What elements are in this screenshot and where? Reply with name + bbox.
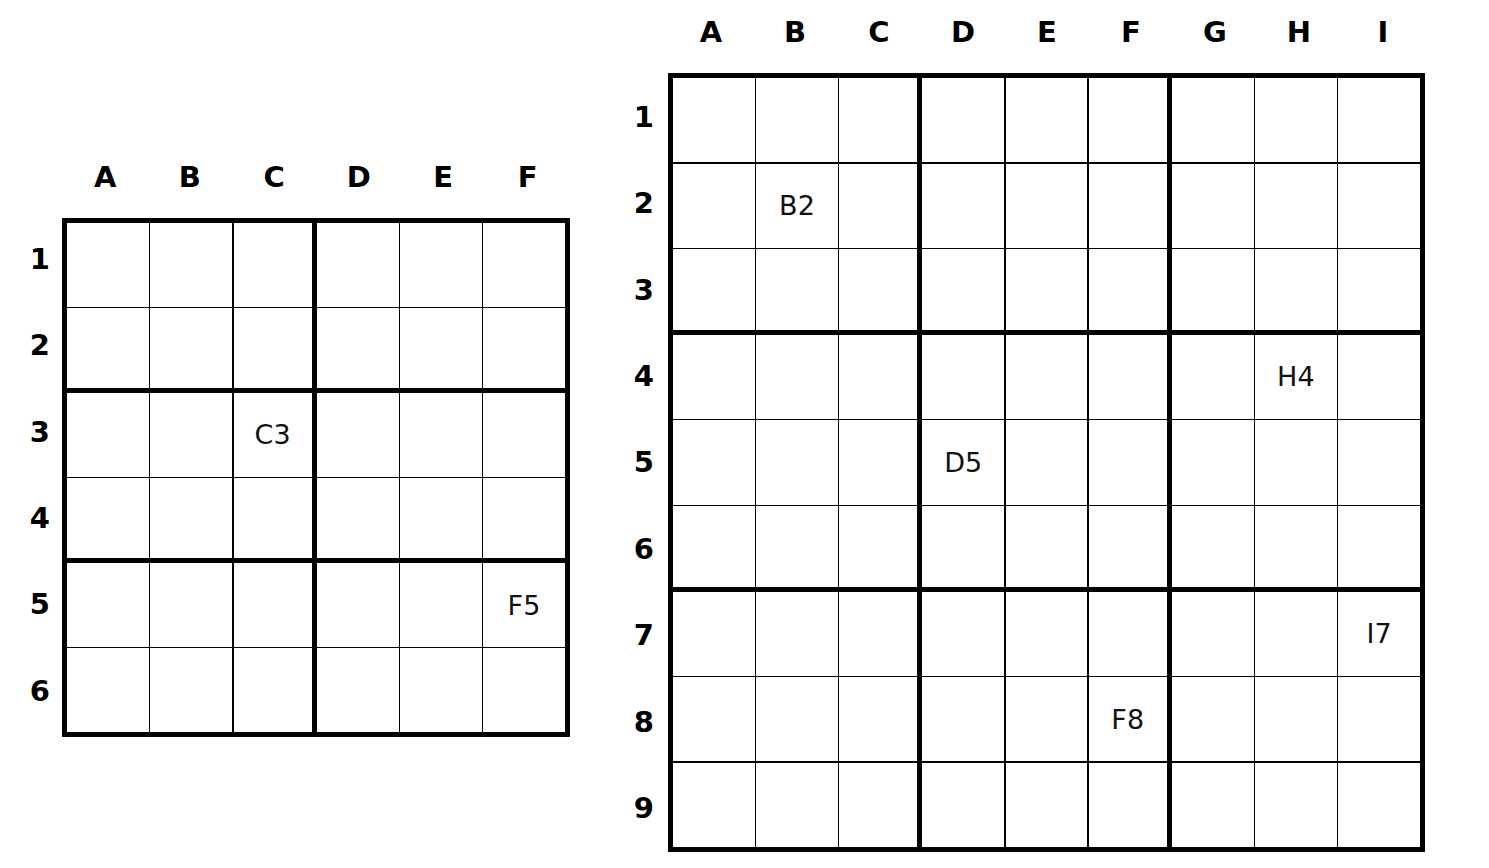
cell-b9[interactable] bbox=[756, 763, 838, 847]
cell-f1[interactable] bbox=[483, 223, 565, 307]
cell-g2[interactable] bbox=[1172, 164, 1254, 248]
cell-a5[interactable] bbox=[673, 420, 755, 504]
cell-d8[interactable] bbox=[922, 677, 1004, 761]
cell-c1[interactable] bbox=[234, 223, 317, 307]
cell-i1[interactable] bbox=[1338, 78, 1420, 162]
cell-e4[interactable] bbox=[400, 478, 482, 563]
cell-e6[interactable] bbox=[1006, 506, 1088, 592]
cell-a8[interactable] bbox=[673, 677, 755, 761]
cell-e3[interactable] bbox=[1006, 249, 1088, 335]
cell-c3[interactable] bbox=[839, 249, 922, 335]
cell-b6[interactable] bbox=[756, 506, 838, 592]
cell-h6[interactable] bbox=[1255, 506, 1337, 592]
cell-f7[interactable] bbox=[1089, 592, 1172, 676]
cell-f8[interactable]: F8 bbox=[1089, 677, 1172, 761]
cell-f6[interactable] bbox=[483, 648, 565, 732]
cell-e7[interactable] bbox=[1006, 592, 1088, 676]
cell-g4[interactable] bbox=[1172, 335, 1254, 419]
cell-f4[interactable] bbox=[1089, 335, 1172, 419]
cell-f9[interactable] bbox=[1089, 763, 1172, 847]
cell-b7[interactable] bbox=[756, 592, 838, 676]
cell-b1[interactable] bbox=[756, 78, 838, 162]
cell-i6[interactable] bbox=[1338, 506, 1420, 592]
cell-h3[interactable] bbox=[1255, 249, 1337, 335]
cell-a1[interactable] bbox=[67, 223, 149, 307]
cell-c6[interactable] bbox=[839, 506, 922, 592]
cell-e5[interactable] bbox=[1006, 420, 1088, 504]
cell-a3[interactable] bbox=[67, 393, 149, 477]
cell-a2[interactable] bbox=[673, 164, 755, 248]
cell-d2[interactable] bbox=[317, 308, 399, 393]
cell-e2[interactable] bbox=[1006, 164, 1088, 248]
cell-e6[interactable] bbox=[400, 648, 482, 732]
cell-f2[interactable] bbox=[483, 308, 565, 393]
cell-e1[interactable] bbox=[1006, 78, 1088, 162]
cell-b3[interactable] bbox=[756, 249, 838, 335]
cell-d1[interactable] bbox=[317, 223, 399, 307]
cell-e4[interactable] bbox=[1006, 335, 1088, 419]
cell-e9[interactable] bbox=[1006, 763, 1088, 847]
cell-f4[interactable] bbox=[483, 478, 565, 563]
cell-c2[interactable] bbox=[839, 164, 922, 248]
cell-a5[interactable] bbox=[67, 563, 149, 647]
cell-c6[interactable] bbox=[234, 648, 317, 732]
cell-g8[interactable] bbox=[1172, 677, 1254, 761]
cell-h2[interactable] bbox=[1255, 164, 1337, 248]
cell-g7[interactable] bbox=[1172, 592, 1254, 676]
cell-a4[interactable] bbox=[67, 478, 149, 563]
cell-b5[interactable] bbox=[756, 420, 838, 504]
cell-h7[interactable] bbox=[1255, 592, 1337, 676]
cell-a6[interactable] bbox=[67, 648, 149, 732]
cell-h4[interactable]: H4 bbox=[1255, 335, 1337, 419]
cell-d2[interactable] bbox=[922, 164, 1004, 248]
cell-d3[interactable] bbox=[922, 249, 1004, 335]
cell-g6[interactable] bbox=[1172, 506, 1254, 592]
cell-i5[interactable] bbox=[1338, 420, 1420, 504]
cell-g9[interactable] bbox=[1172, 763, 1254, 847]
cell-d9[interactable] bbox=[922, 763, 1004, 847]
cell-d6[interactable] bbox=[922, 506, 1004, 592]
cell-e5[interactable] bbox=[400, 563, 482, 647]
cell-i7[interactable]: I7 bbox=[1338, 592, 1420, 676]
cell-g3[interactable] bbox=[1172, 249, 1254, 335]
cell-b4[interactable] bbox=[150, 478, 232, 563]
cell-a4[interactable] bbox=[673, 335, 755, 419]
cell-d5[interactable] bbox=[317, 563, 399, 647]
cell-d7[interactable] bbox=[922, 592, 1004, 676]
cell-b2[interactable]: B2 bbox=[756, 164, 838, 248]
cell-b6[interactable] bbox=[150, 648, 232, 732]
right-grid-board[interactable]: B2H4D5I7F8 bbox=[668, 73, 1425, 852]
left-grid-board[interactable]: C3F5 bbox=[62, 218, 570, 737]
cell-g1[interactable] bbox=[1172, 78, 1254, 162]
cell-h1[interactable] bbox=[1255, 78, 1337, 162]
cell-i4[interactable] bbox=[1338, 335, 1420, 419]
cell-d6[interactable] bbox=[317, 648, 399, 732]
cell-c4[interactable] bbox=[234, 478, 317, 563]
cell-c9[interactable] bbox=[839, 763, 922, 847]
cell-e2[interactable] bbox=[400, 308, 482, 393]
cell-b3[interactable] bbox=[150, 393, 232, 477]
cell-a3[interactable] bbox=[673, 249, 755, 335]
cell-b5[interactable] bbox=[150, 563, 232, 647]
cell-e3[interactable] bbox=[400, 393, 482, 477]
cell-e1[interactable] bbox=[400, 223, 482, 307]
cell-a9[interactable] bbox=[673, 763, 755, 847]
cell-h5[interactable] bbox=[1255, 420, 1337, 504]
cell-i2[interactable] bbox=[1338, 164, 1420, 248]
cell-f6[interactable] bbox=[1089, 506, 1172, 592]
cell-i3[interactable] bbox=[1338, 249, 1420, 335]
cell-f5[interactable]: F5 bbox=[483, 563, 565, 647]
cell-b1[interactable] bbox=[150, 223, 232, 307]
cell-f2[interactable] bbox=[1089, 164, 1172, 248]
cell-a1[interactable] bbox=[673, 78, 755, 162]
cell-c2[interactable] bbox=[234, 308, 317, 393]
cell-a7[interactable] bbox=[673, 592, 755, 676]
cell-a6[interactable] bbox=[673, 506, 755, 592]
cell-i9[interactable] bbox=[1338, 763, 1420, 847]
cell-c7[interactable] bbox=[839, 592, 922, 676]
cell-c5[interactable] bbox=[839, 420, 922, 504]
cell-f5[interactable] bbox=[1089, 420, 1172, 504]
cell-d1[interactable] bbox=[922, 78, 1004, 162]
cell-c1[interactable] bbox=[839, 78, 922, 162]
cell-d5[interactable]: D5 bbox=[922, 420, 1004, 504]
